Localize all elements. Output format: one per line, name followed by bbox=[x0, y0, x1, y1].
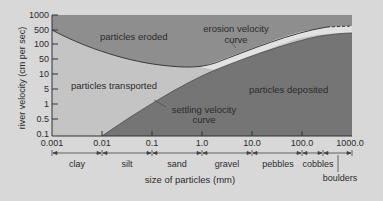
y-tick-label: 500 bbox=[34, 25, 49, 35]
class-label-clay: clay bbox=[69, 159, 86, 169]
y-tick-label: 50 bbox=[39, 54, 49, 64]
region-label-eroded: particles eroded bbox=[100, 31, 168, 42]
x-tick-label: 0.01 bbox=[93, 138, 111, 148]
y-axis-title: river velocity (cm per sec) bbox=[17, 27, 27, 130]
settling-curve-label-2: curve bbox=[192, 114, 215, 125]
hjulstrom-chart: 1000 500 100 50 10 5 1 0.5 0.1 0.001 0.0… bbox=[0, 0, 383, 201]
erosion-curve-label-2: curve bbox=[224, 34, 247, 45]
x-tick-labels: 0.001 0.01 0.1 1.0 10.0 100.0 1000.0 bbox=[41, 138, 364, 148]
y-tick-label: 5 bbox=[44, 84, 49, 94]
x-tick-label: 0.1 bbox=[146, 138, 159, 148]
x-tick-label: 100.0 bbox=[291, 138, 314, 148]
x-tick-label: 1.0 bbox=[196, 138, 209, 148]
y-tick-label: 1000 bbox=[29, 10, 49, 20]
class-label-sand: sand bbox=[167, 159, 187, 169]
class-label-silt: silt bbox=[122, 159, 133, 169]
erosion-curve-label: erosion velocity bbox=[203, 23, 269, 34]
class-label-gravel: gravel bbox=[215, 159, 240, 169]
class-label-pebbles: pebbles bbox=[262, 159, 294, 169]
x-tick-label: 1000.0 bbox=[336, 138, 364, 148]
y-tick-label: 100 bbox=[34, 39, 49, 49]
region-label-deposited: particles deposited bbox=[249, 84, 328, 95]
x-axis-title: size of particles (mm) bbox=[145, 174, 235, 185]
x-tick-label: 0.001 bbox=[41, 138, 64, 148]
region-label-transported: particles transported bbox=[71, 80, 157, 91]
y-tick-label: 1 bbox=[44, 99, 49, 109]
y-tick-labels: 1000 500 100 50 10 5 1 0.5 0.1 bbox=[29, 10, 49, 139]
class-label-cobbles: cobbles bbox=[302, 159, 334, 169]
y-tick-label: 10 bbox=[39, 69, 49, 79]
class-label-boulders: boulders bbox=[323, 173, 358, 183]
y-tick-label: 0.5 bbox=[36, 114, 49, 124]
x-tick-label: 10.0 bbox=[243, 138, 261, 148]
